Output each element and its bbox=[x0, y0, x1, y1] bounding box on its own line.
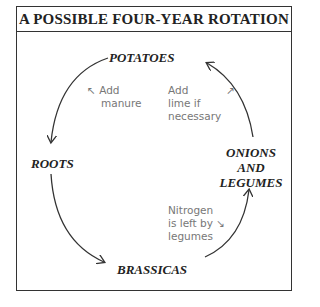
arrow-up-left-icon: ↖ bbox=[87, 84, 96, 96]
note-nitrogen: Nitrogen is left by ↘ legumes bbox=[168, 204, 225, 243]
crop-onions-and-legumes: ONIONS AND LEGUMES bbox=[215, 145, 287, 190]
note-add-lime: Add↗ lime if necessary bbox=[168, 84, 235, 123]
crop-brassicas: BRASSICAS bbox=[117, 262, 187, 277]
arrow-up-right-icon: ↗ bbox=[226, 84, 235, 96]
arrow-down-right-icon: ↘ bbox=[216, 217, 225, 229]
crop-potatoes: POTATOES bbox=[109, 50, 175, 65]
crop-roots: ROOTS bbox=[31, 156, 74, 171]
note-add-manure: ↖ Add manure bbox=[87, 84, 142, 110]
arrow-roots-to-brassicas bbox=[51, 174, 104, 262]
